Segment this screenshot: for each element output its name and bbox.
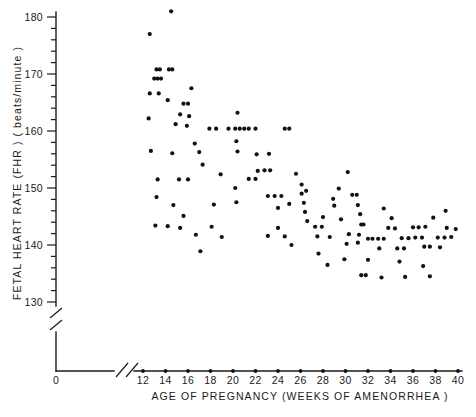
data-point — [428, 245, 432, 249]
data-point — [212, 202, 216, 206]
data-point — [149, 149, 153, 153]
y-axis-break-lower — [50, 320, 62, 330]
data-point — [283, 234, 287, 238]
data-point — [337, 186, 341, 190]
data-point — [201, 163, 205, 167]
x-tick-36 — [411, 369, 415, 373]
data-point — [187, 114, 191, 118]
data-point — [325, 263, 329, 267]
x-tick-label-22: 22 — [249, 374, 261, 386]
y-axis-break-upper — [50, 308, 62, 318]
x-tick-12 — [141, 369, 145, 373]
data-point — [256, 169, 260, 173]
y-axis-ticks — [47, 17, 56, 302]
data-point — [235, 149, 239, 153]
data-point — [234, 139, 238, 143]
data-point — [332, 204, 336, 208]
y-axis-minor-ticks — [51, 28, 56, 290]
data-point — [393, 226, 397, 230]
data-point — [193, 141, 197, 145]
data-point — [235, 111, 239, 115]
data-point — [347, 232, 351, 236]
data-point — [376, 237, 380, 241]
data-point — [411, 225, 415, 229]
data-point — [238, 127, 242, 131]
y-tick-label-150: 150 — [25, 182, 43, 194]
x-tick-label-34: 34 — [384, 374, 396, 386]
data-point — [422, 245, 426, 249]
data-point — [316, 251, 320, 255]
data-point — [358, 212, 362, 216]
data-point — [169, 9, 173, 13]
data-point — [220, 235, 224, 239]
data-point — [417, 225, 421, 229]
data-point — [449, 235, 453, 239]
data-point — [377, 246, 381, 250]
data-point — [442, 235, 446, 239]
data-point — [170, 151, 174, 155]
data-point — [454, 227, 458, 231]
data-point — [406, 236, 410, 240]
data-point — [219, 172, 223, 176]
y-tick-label-130: 130 — [25, 296, 43, 308]
data-point — [444, 209, 448, 213]
x-tick-28 — [321, 369, 325, 373]
data-point — [357, 233, 361, 237]
data-point — [303, 210, 307, 214]
data-point — [438, 245, 442, 249]
data-point — [315, 234, 319, 238]
data-point — [166, 224, 170, 228]
data-point — [266, 234, 270, 238]
data-point — [262, 168, 266, 172]
data-point — [189, 86, 193, 90]
data-point — [287, 202, 291, 206]
data-point — [171, 203, 175, 207]
data-point — [346, 170, 350, 174]
x-tick-18 — [209, 369, 213, 373]
data-point — [266, 194, 270, 198]
x-tick-22 — [254, 369, 258, 373]
data-point — [198, 249, 202, 253]
data-point — [421, 264, 425, 268]
data-point — [253, 127, 257, 131]
data-point — [226, 127, 230, 131]
data-point — [234, 200, 238, 204]
data-point — [370, 237, 374, 241]
data-point — [300, 192, 304, 196]
data-point — [174, 122, 178, 126]
data-point — [403, 275, 407, 279]
data-point — [186, 102, 190, 106]
data-point — [413, 235, 417, 239]
x-tick-label-36: 36 — [407, 374, 419, 386]
data-point — [148, 32, 152, 36]
data-point — [177, 177, 181, 181]
data-point — [428, 274, 432, 278]
data-point — [185, 124, 189, 128]
data-point — [276, 226, 280, 230]
data-point — [207, 127, 211, 131]
data-point — [157, 91, 161, 95]
x-axis-title: AGE OF PREGNANCY (WEEKS OF AMENORRHEA ) — [151, 390, 448, 402]
data-point — [331, 197, 335, 201]
data-point — [420, 235, 424, 239]
data-point — [178, 112, 182, 116]
y-tick-label-160: 160 — [25, 125, 43, 137]
data-point — [304, 189, 308, 193]
data-point — [148, 91, 152, 95]
scatter-points — [147, 9, 458, 279]
chart-canvas: FETAL HEART RATE (FHR ) ( beats/minute )… — [0, 0, 476, 417]
x-tick-34 — [389, 369, 393, 373]
x-axis-break-left — [116, 363, 128, 377]
data-point — [247, 177, 251, 181]
data-point — [170, 67, 174, 71]
x-tick-20 — [231, 369, 235, 373]
x-tick-label-12: 12 — [137, 374, 149, 386]
data-point — [186, 177, 190, 181]
data-point — [342, 257, 346, 261]
data-point — [445, 226, 449, 230]
data-point — [320, 225, 324, 229]
data-point — [233, 127, 237, 131]
data-point — [339, 217, 343, 221]
x-tick-label-40: 40 — [452, 374, 464, 386]
data-point — [361, 222, 365, 226]
